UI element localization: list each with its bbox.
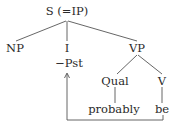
syntax-tree-diagram: S (=IP) NP I −Pst VP Qual V probably be xyxy=(0,0,183,133)
node-past-feature: −Pst xyxy=(55,58,83,70)
branch-vp-v xyxy=(138,55,162,74)
word-probably: probably xyxy=(88,104,140,116)
node-np: NP xyxy=(6,43,24,55)
branch-s-vp xyxy=(68,21,137,41)
node-v: V xyxy=(158,76,166,88)
node-s-ip: S (=IP) xyxy=(46,6,88,18)
word-be: be xyxy=(155,104,169,116)
node-qual: Qual xyxy=(101,76,128,88)
node-vp: VP xyxy=(129,43,145,55)
branch-vp-qual xyxy=(117,55,137,74)
branch-s-np xyxy=(16,21,66,41)
node-i: I xyxy=(65,43,70,55)
